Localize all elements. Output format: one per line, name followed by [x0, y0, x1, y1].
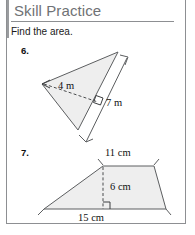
trapezoid-shape [44, 166, 166, 209]
trapezoid-figure: 11 cm 6 cm 15 cm [24, 143, 176, 223]
page-title: Skill Practice [14, 2, 101, 19]
triangle-figure: 4 m 7 m [24, 44, 174, 144]
top-tick-left-icon [98, 159, 103, 165]
bottom-tick-right-icon [166, 209, 171, 215]
trapezoid-height-label: 6 cm [110, 181, 131, 192]
bottom-tick-left-icon [38, 209, 44, 215]
trapezoid-bottom-label: 15 cm [78, 212, 104, 223]
heading-accent-rule [7, 0, 9, 38]
worksheet-page: Skill Practice Find the area. 6. 4 m 7 m… [0, 0, 195, 235]
title-divider [11, 21, 174, 22]
triangle-height-label: 4 m [58, 80, 74, 91]
triangle-base-label: 7 m [106, 97, 122, 108]
top-tick-right-icon [154, 159, 159, 165]
trapezoid-top-label: 11 cm [105, 147, 131, 158]
triangle-shape [42, 52, 118, 130]
instruction-text: Find the area. [11, 25, 73, 38]
